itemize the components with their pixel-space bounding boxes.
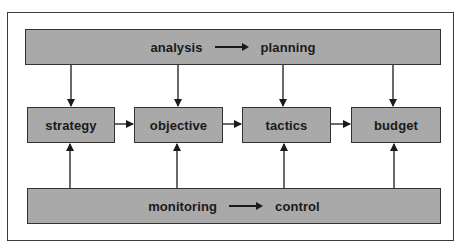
- budget-label: budget: [374, 118, 418, 133]
- objective-label: objective: [150, 118, 207, 133]
- analysis-label: analysis: [150, 40, 202, 55]
- right-arrow-icon: [229, 201, 263, 211]
- planning-label: planning: [261, 40, 316, 55]
- objective-box: objective: [134, 107, 223, 143]
- strategy-box: strategy: [27, 107, 115, 143]
- analysis-planning-bar: analysis planning: [25, 29, 441, 65]
- monitoring-control-bar: monitoring control: [27, 188, 441, 224]
- tactics-box: tactics: [242, 107, 331, 143]
- strategy-label: strategy: [45, 118, 96, 133]
- budget-box: budget: [351, 107, 441, 143]
- tactics-label: tactics: [266, 118, 308, 133]
- control-label: control: [275, 199, 320, 214]
- right-arrow-icon: [215, 42, 249, 52]
- monitoring-label: monitoring: [148, 199, 217, 214]
